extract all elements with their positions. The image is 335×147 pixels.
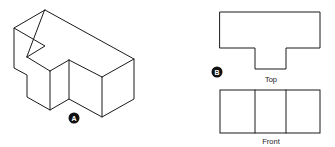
front-view: Front bbox=[220, 90, 320, 146]
front-view-label: Front bbox=[262, 137, 280, 146]
badge-a-letter: A bbox=[71, 115, 76, 122]
isometric-edge bbox=[50, 60, 69, 71]
badge-b: B bbox=[212, 67, 223, 78]
badge-b-letter: B bbox=[214, 69, 219, 76]
technical-drawing: A B Top Front bbox=[0, 0, 335, 147]
isometric-edge bbox=[14, 10, 45, 28]
isometric-edge bbox=[102, 59, 134, 77]
isometric-edge bbox=[69, 60, 102, 77]
front-view-dividers bbox=[255, 90, 286, 133]
front-view-outline bbox=[220, 90, 320, 133]
isometric-outline bbox=[14, 10, 134, 117]
orthographic-views: B Top Front bbox=[212, 12, 321, 146]
top-view-label: Top bbox=[265, 75, 277, 84]
top-view: Top bbox=[220, 12, 320, 84]
isometric-edge bbox=[27, 57, 50, 71]
top-view-outline bbox=[220, 12, 320, 69]
badge-a: A bbox=[69, 113, 80, 124]
isometric-view: A bbox=[14, 10, 134, 124]
